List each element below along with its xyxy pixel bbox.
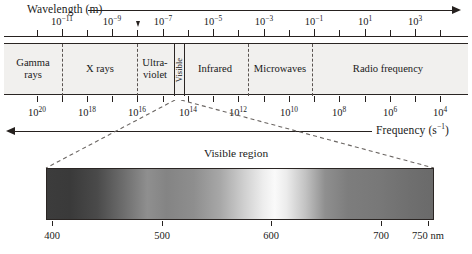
band-label-ultraviolet: Ultra-violet [142, 57, 167, 80]
wavelength-axis-title-line [88, 10, 456, 11]
wavelength-tick-label: 10−3 [255, 17, 273, 28]
band-divider [312, 44, 313, 96]
band-label-gamma-rays: Gammarays [16, 57, 50, 80]
nm-tick [428, 221, 429, 226]
electromagnetic-spectrum-figure: Wavelength (m) 10−1110−910−710−510−310−1… [0, 0, 472, 254]
wavelength-tick-label: 103 [408, 17, 422, 28]
nm-tick-label: 500 [154, 230, 170, 241]
wavelength-tick-label: 10−5 [204, 17, 222, 28]
nm-tick-label: 600 [263, 230, 279, 241]
wavelength-axis-line [4, 36, 468, 37]
band-label-x-rays: X rays [86, 63, 114, 75]
band-label-radio-frequency: Radio frequency [353, 63, 423, 75]
nm-tick-label: 400 [44, 230, 60, 241]
uv-pointer-arrow-icon [136, 21, 140, 27]
visible-band-slice-label: Visible [174, 44, 185, 96]
band-label-microwaves: Microwaves [254, 63, 306, 75]
nm-tick [162, 221, 163, 226]
callout-expansion-lines [0, 100, 472, 172]
visible-region-title: Visible region [204, 148, 268, 159]
wavelength-tick-label: 10−7 [154, 17, 172, 28]
wavelength-tick [314, 29, 315, 36]
nm-tick [52, 221, 53, 226]
nm-tick [271, 221, 272, 226]
wavelength-tick [213, 29, 214, 36]
wavelength-tick [62, 29, 63, 36]
visible-spectrum-bar [46, 168, 434, 220]
wavelength-tick [264, 29, 265, 36]
wavelength-tick-label: 10−11 [51, 17, 73, 28]
wavelength-tick [365, 29, 366, 36]
wavelength-tick [112, 29, 113, 36]
wavelength-tick [415, 29, 416, 36]
nm-tick-label: 750 nm [412, 230, 444, 241]
wavelength-arrow-right-icon [452, 6, 461, 14]
wavelength-tick-label: 101 [358, 17, 372, 28]
band-divider [62, 44, 63, 96]
nm-tick-label: 700 [373, 230, 389, 241]
band-divider [248, 44, 249, 96]
wavelength-tick-label: 10−9 [103, 17, 121, 28]
band-divider [137, 44, 138, 96]
nm-tick [381, 221, 382, 226]
wavelength-tick-label: 10−1 [305, 17, 323, 28]
wavelength-tick [163, 29, 164, 36]
band-label-infrared: Infrared [198, 63, 232, 75]
